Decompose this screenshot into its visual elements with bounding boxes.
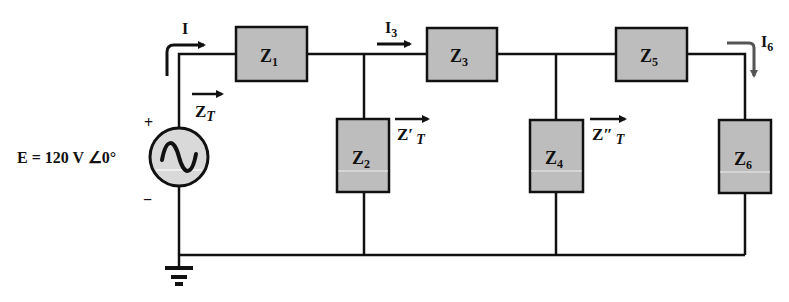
minus-sign: − bbox=[143, 191, 152, 208]
impedance-z5: Z5 bbox=[616, 28, 687, 81]
impedance-z1: Z1 bbox=[236, 27, 307, 81]
source-value-label: E = 120 V ∠0° bbox=[17, 149, 116, 166]
svg-text:ZT: ZT bbox=[195, 102, 216, 124]
svg-text:Z″T: Z″T bbox=[592, 125, 626, 147]
circuit-diagram: + − E = 120 V ∠0° I I3 I6 ZT Z′T Z″T Z1 … bbox=[0, 0, 789, 302]
current-i-arrow: I bbox=[167, 20, 204, 76]
svg-text:I3: I3 bbox=[385, 19, 397, 40]
svg-text:I6: I6 bbox=[761, 33, 773, 54]
zppt-label: Z″T bbox=[590, 119, 626, 147]
impedance-z3: Z3 bbox=[427, 28, 497, 81]
impedance-z4: Z4 bbox=[530, 120, 583, 192]
svg-text:Z′T: Z′T bbox=[397, 125, 426, 147]
current-i3-arrow: I3 bbox=[377, 19, 410, 44]
zpt-label: Z′T bbox=[395, 119, 428, 147]
zt-label: ZT bbox=[192, 94, 222, 124]
impedance-z6: Z6 bbox=[719, 120, 771, 193]
plus-sign: + bbox=[144, 114, 153, 131]
ground-icon bbox=[165, 266, 193, 286]
wires bbox=[179, 54, 745, 267]
impedance-z2: Z2 bbox=[337, 119, 389, 192]
svg-text:I: I bbox=[182, 20, 188, 37]
